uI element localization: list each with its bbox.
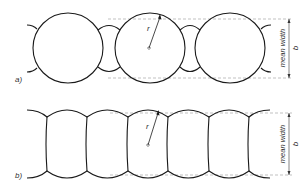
circle-1-a	[33, 13, 103, 83]
left-stub-top-a	[27, 25, 37, 29]
divider-2-b	[86, 117, 87, 171]
connector-top-23-a	[180, 26, 200, 31]
diagram-b: r mean width b b)	[15, 110, 300, 180]
radius-line-a	[149, 17, 160, 48]
connector-bottom-12-a	[98, 67, 120, 72]
radius-line-b	[148, 113, 158, 145]
right-stub-top-a	[261, 25, 271, 29]
panel-label-a: a)	[15, 75, 22, 84]
circle-2-a	[115, 13, 185, 83]
dim-arrow-bottom-b	[288, 171, 291, 175]
radius-label-a: r	[147, 24, 150, 33]
right-stub-bottom-a	[261, 68, 271, 72]
left-stub-bottom-a	[27, 68, 37, 72]
circle-3-a	[195, 13, 265, 83]
connector-bottom-23-a	[180, 67, 200, 72]
panel-label-b: b)	[15, 171, 22, 180]
mean-width-label-b: mean width	[278, 125, 287, 163]
divider-1-b	[46, 117, 47, 171]
dim-arrow-top-b	[288, 113, 291, 117]
divider-3-b	[127, 117, 128, 171]
divider-4-b	[167, 117, 168, 171]
divider-6-b	[248, 117, 249, 171]
top-edge-b	[27, 110, 270, 117]
connector-top-12-a	[98, 26, 120, 31]
b-label-b: b	[291, 141, 300, 146]
radius-label-b: r	[146, 122, 149, 131]
weld-bead-diagram: r mean width b a) r mean wid	[0, 0, 306, 191]
diagram-a: r mean width b a)	[15, 13, 300, 84]
b-label-a: b	[291, 45, 300, 50]
dim-arrow-bottom-a	[288, 74, 291, 78]
dim-arrow-top-a	[288, 19, 291, 23]
mean-width-label-a: mean width	[278, 29, 287, 67]
divider-5-b	[208, 117, 209, 171]
bottom-edge-b	[27, 171, 270, 178]
